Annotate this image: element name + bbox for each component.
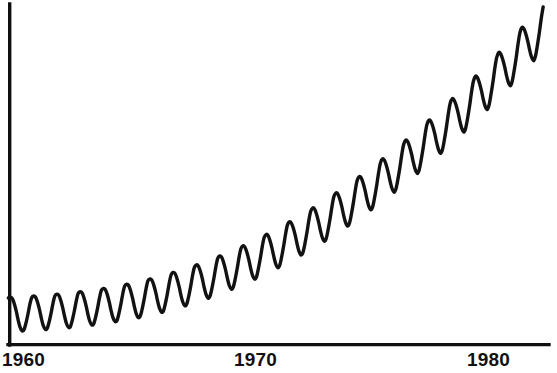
- chart-plot-area: [0, 0, 557, 373]
- x-tick-label-1960: 1960: [2, 350, 45, 369]
- chart-container: 1960 1970 1980: [0, 0, 557, 373]
- x-tick-label-1980: 1980: [467, 350, 510, 369]
- data-series-line: [8, 7, 543, 331]
- x-tick-label-1970: 1970: [234, 350, 277, 369]
